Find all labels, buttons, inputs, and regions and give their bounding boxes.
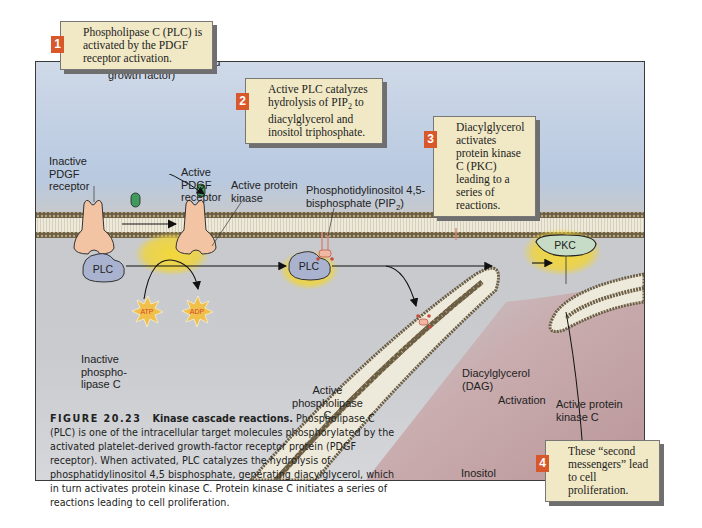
figure-number: FIGURE 20.23 <box>50 413 141 424</box>
dag-label: Diacylglycerol (DAG) <box>462 367 542 392</box>
figure-caption: FIGURE 20.23 Kinase cascade reactions. P… <box>50 412 402 510</box>
atp-burst: ATP <box>132 296 163 327</box>
inactive-plc-label: Inactive phospho- lipase C <box>81 353 141 391</box>
pip2-label: Phosphotidylinositol 4,5-bisphosphate (P… <box>306 184 446 214</box>
step-badge-3: 3 <box>424 131 437 148</box>
pkc-text: PKC <box>554 239 576 251</box>
inactive-receptor-label: Inactive PDGF receptor <box>49 155 105 193</box>
callout-4-text: These “second messengers” lead to cell p… <box>568 445 648 496</box>
callout-4: 4 These “second messengers” lead to cell… <box>545 440 660 502</box>
adp-burst: ADP <box>182 296 213 327</box>
pdgf-molecule <box>131 193 140 207</box>
step-badge-1: 1 <box>51 36 64 53</box>
ip3-label: Inositol triphosphate (IP3 ) <box>461 467 541 481</box>
callout-1: 1 Phospholipase C (PLC) is activated by … <box>60 21 213 70</box>
svg-text:ADP: ADP <box>190 308 205 315</box>
callout-3-text: Diacylglycerol activates protein kinase … <box>456 121 524 211</box>
callout-3: 3 Diacylglycerol activates protein kinas… <box>433 116 536 217</box>
active-receptor-label: Active PDGF receptor <box>181 166 229 204</box>
step-badge-2: 2 <box>236 93 249 110</box>
callout-1-text: Phospholipase C (PLC) is activated by th… <box>83 26 202 64</box>
step-badge-4: 4 <box>536 455 549 472</box>
figure-body: Phospholipase C (PLC) is one of the intr… <box>50 413 394 508</box>
callout-2-text: Active PLC catalyzes hydrolysis of PIP2 … <box>268 83 368 138</box>
active-protein-kinase-label: Active protein kinase <box>231 179 316 204</box>
ip3-arrow <box>386 266 416 306</box>
plc-inactive-text: PLC <box>93 263 114 275</box>
callout-2: 2 Active PLC catalyzes hydrolysis of PIP… <box>245 78 383 144</box>
active-pkc-label: Active protein kinase C <box>556 398 636 423</box>
svg-text:ATP: ATP <box>140 308 153 315</box>
plc-active-text: PLC <box>299 260 320 272</box>
figure-title: Kinase cascade reactions. <box>152 413 292 424</box>
